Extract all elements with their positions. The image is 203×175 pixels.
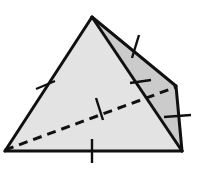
tetrahedron-figure [0,0,203,175]
